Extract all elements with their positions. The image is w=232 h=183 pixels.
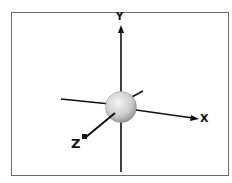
x-arrow-icon bbox=[190, 115, 199, 121]
z-arrow-icon bbox=[82, 134, 87, 139]
z-axis bbox=[86, 113, 115, 137]
x-axis-negative bbox=[61, 99, 110, 104]
x-axis bbox=[136, 110, 193, 118]
z-axis-label: Z bbox=[71, 136, 80, 151]
y-arrow-icon bbox=[118, 25, 124, 33]
x-axis-label: X bbox=[200, 112, 208, 125]
y-axis-label: Y bbox=[116, 11, 123, 22]
axes-diagram bbox=[0, 0, 232, 183]
